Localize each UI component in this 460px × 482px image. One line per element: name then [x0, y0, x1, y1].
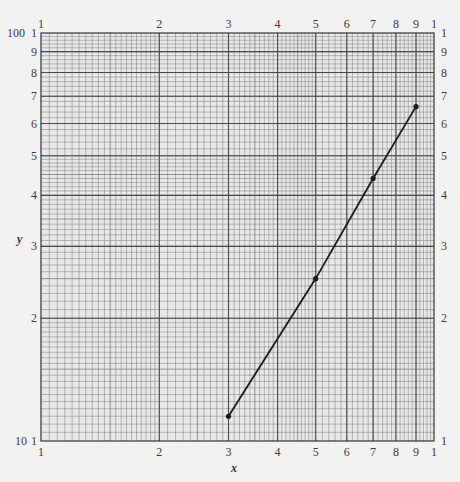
y-tick-left-2: 2	[31, 312, 37, 324]
x-tick-bottom-9: 9	[413, 446, 419, 458]
x-tick-top-1: 1	[38, 18, 44, 30]
x-tick-bottom-3: 3	[226, 446, 232, 458]
data-point-marker	[371, 176, 376, 181]
y-tick-right-3: 3	[441, 240, 447, 252]
x-tick-top-9: 9	[413, 18, 419, 30]
y-decade-label-10: 10	[15, 435, 27, 447]
y-tick-right-2: 2	[441, 312, 447, 324]
x-tick-top-3: 3	[226, 18, 232, 30]
x-tick-bottom-6: 6	[344, 446, 350, 458]
y-tick-left-8: 8	[31, 67, 37, 79]
plot-area	[41, 33, 434, 441]
x-tick-bottom-1: 1	[38, 446, 44, 458]
y-tick-right-8: 8	[441, 67, 447, 79]
x-tick-top-6: 6	[344, 18, 350, 30]
x-tick-bottom-8: 8	[393, 446, 399, 458]
y-axis-title: y	[17, 232, 22, 247]
y-tick-right-9: 9	[441, 46, 447, 58]
log-log-chart	[0, 0, 460, 482]
y-tick-right-1: 1	[441, 435, 447, 447]
x-tick-bottom-7: 7	[370, 446, 376, 458]
y-decade-label-100: 100	[7, 27, 25, 39]
y-tick-left-7: 7	[31, 90, 37, 102]
x-tick-top-2: 2	[156, 18, 162, 30]
y-tick-left-3: 3	[31, 240, 37, 252]
y-tick-left-6: 6	[31, 118, 37, 130]
y-tick-right-5: 5	[441, 150, 447, 162]
y-tick-left-9: 9	[31, 46, 37, 58]
x-tick-top-5: 5	[313, 18, 319, 30]
x-tick-bottom-4: 4	[275, 446, 281, 458]
y-tick-left-1: 1	[31, 435, 37, 447]
data-point-marker	[226, 414, 231, 419]
y-tick-left-4: 4	[31, 189, 37, 201]
x-tick-top-1: 1	[431, 18, 437, 30]
x-tick-top-7: 7	[370, 18, 376, 30]
y-tick-left-5: 5	[31, 150, 37, 162]
x-tick-top-8: 8	[393, 18, 399, 30]
x-tick-top-4: 4	[275, 18, 281, 30]
y-tick-right-1: 1	[441, 27, 447, 39]
x-tick-bottom-5: 5	[313, 446, 319, 458]
data-point-marker	[413, 104, 418, 109]
x-axis-title: x	[231, 461, 237, 476]
data-point-marker	[313, 276, 318, 281]
y-tick-left-1: 1	[31, 27, 37, 39]
y-tick-right-6: 6	[441, 118, 447, 130]
x-tick-bottom-2: 2	[156, 446, 162, 458]
y-tick-right-7: 7	[441, 90, 447, 102]
y-tick-right-4: 4	[441, 189, 447, 201]
x-tick-bottom-1: 1	[431, 446, 437, 458]
